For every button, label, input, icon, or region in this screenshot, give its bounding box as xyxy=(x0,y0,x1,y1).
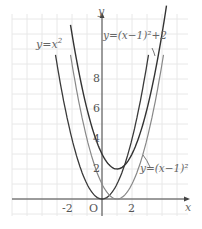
graph-canvas xyxy=(0,0,202,229)
y-axis-label: y xyxy=(98,6,104,17)
origin-label: O xyxy=(89,203,98,214)
y-tick-4: 4 xyxy=(93,133,100,144)
parabola-graph: y x O -2 2 2 4 6 8 y=x2 y=(x−1)²+2 y=(x−… xyxy=(0,0,202,229)
x-tick-2: 2 xyxy=(128,203,135,214)
y-tick-6: 6 xyxy=(93,103,100,114)
label-shifted-up: y=(x−1)²+2 xyxy=(103,30,167,41)
label-shifted: y=(x−1)² xyxy=(140,163,189,174)
x-axis-label: x xyxy=(185,202,191,213)
label-y-equals-x-squared: y=x2 xyxy=(36,38,62,50)
y-tick-2: 2 xyxy=(93,163,100,174)
y-tick-8: 8 xyxy=(93,73,100,84)
x-tick-neg2: -2 xyxy=(62,203,73,214)
